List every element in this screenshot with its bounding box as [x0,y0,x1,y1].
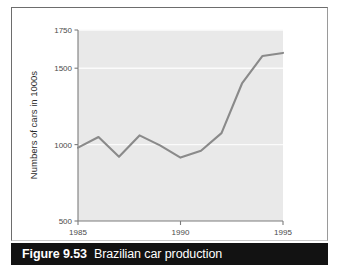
y-axis-tick-labels: 500100015001750 [54,26,72,226]
x-axis-ticks [78,221,283,225]
y-tick-label-1750: 1750 [54,26,72,35]
x-tick-label-1990: 1990 [172,228,190,237]
figure-caption-number: Figure 9.53 [22,247,87,261]
figure-caption-bar: Figure 9.53 Brazilian car production [11,243,328,265]
y-tick-label-500: 500 [59,217,73,226]
y-axis-title: Numbers of cars in 1000s [28,71,39,179]
line-chart: 500100015001750 198519901995 Numbers of … [11,7,328,241]
x-tick-label-1985: 1985 [69,228,87,237]
x-axis-tick-labels: 198519901995 [69,228,292,237]
figure-container: 500100015001750 198519901995 Numbers of … [0,0,339,272]
y-tick-label-1500: 1500 [54,64,72,73]
chart-svg: 500100015001750 198519901995 Numbers of … [11,7,328,241]
y-tick-label-1000: 1000 [54,141,72,150]
plot-background [78,30,283,221]
x-tick-label-1995: 1995 [274,228,292,237]
figure-caption-title: Brazilian car production [94,247,222,261]
